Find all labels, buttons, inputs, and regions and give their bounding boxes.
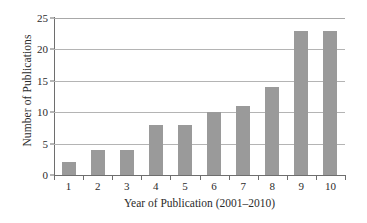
y-tick-mark-10 <box>50 112 54 113</box>
bar <box>120 150 134 175</box>
x-axis-title: Year of Publication (2001–2010) <box>54 198 345 210</box>
bar-slot <box>54 18 83 175</box>
x-tick-mark <box>170 176 171 180</box>
x-tick-label-10: 10 <box>317 181 343 192</box>
publications-bar-chart: Number of Publications 0510152025 123456… <box>0 0 367 223</box>
x-tick-mark <box>112 176 113 180</box>
bar-slot <box>170 18 199 175</box>
x-tick-mark <box>229 176 230 180</box>
x-tick-label-9: 9 <box>288 181 314 192</box>
bar-slot <box>316 18 345 175</box>
y-tick-mark-25 <box>50 18 54 19</box>
x-tick-label-8: 8 <box>259 181 285 192</box>
bar <box>236 106 250 175</box>
y-tick-label-5: 5 <box>28 138 48 149</box>
bar-slot <box>112 18 141 175</box>
bar-series <box>54 18 345 175</box>
y-tick-mark-5 <box>50 143 54 144</box>
x-tick-mark <box>258 176 259 180</box>
y-tick-label-20: 20 <box>28 44 48 55</box>
x-tick-mark <box>54 176 55 180</box>
bar-slot <box>141 18 170 175</box>
bar <box>149 125 163 175</box>
bar <box>62 162 76 175</box>
bar <box>265 87 279 175</box>
x-tick-mark <box>141 176 142 180</box>
x-tick-label-4: 4 <box>143 181 169 192</box>
bar <box>207 112 221 175</box>
y-axis-tick-labels: 0510152025 <box>28 0 48 223</box>
x-tick-label-2: 2 <box>85 181 111 192</box>
y-tick-mark-20 <box>50 49 54 50</box>
x-tick-label-3: 3 <box>114 181 140 192</box>
bar-slot <box>287 18 316 175</box>
y-tick-label-15: 15 <box>28 75 48 86</box>
y-tick-label-10: 10 <box>28 107 48 118</box>
x-tick-label-1: 1 <box>56 181 82 192</box>
plot-area <box>54 18 345 175</box>
y-tick-mark-15 <box>50 80 54 81</box>
x-tick-mark <box>345 176 346 180</box>
bar <box>178 125 192 175</box>
x-tick-mark <box>200 176 201 180</box>
bar-slot <box>83 18 112 175</box>
bar <box>323 31 337 175</box>
x-tick-mark <box>316 176 317 180</box>
bar-slot <box>229 18 258 175</box>
x-tick-mark <box>83 176 84 180</box>
x-tick-mark <box>287 176 288 180</box>
y-tick-mark-0 <box>50 175 54 176</box>
bar <box>294 31 308 175</box>
bar-slot <box>200 18 229 175</box>
x-tick-label-5: 5 <box>172 181 198 192</box>
x-tick-label-7: 7 <box>230 181 256 192</box>
x-tick-label-6: 6 <box>201 181 227 192</box>
bar-slot <box>258 18 287 175</box>
bar <box>91 150 105 175</box>
y-tick-label-0: 0 <box>28 170 48 181</box>
y-tick-label-25: 25 <box>28 13 48 24</box>
